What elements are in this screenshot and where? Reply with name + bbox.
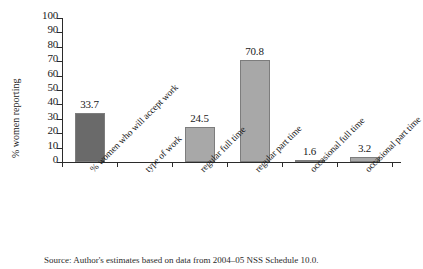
y-tick-label: 70 [32,53,58,64]
bar [240,60,270,162]
x-tick-mark [62,162,63,167]
y-tick-label: 60 [32,68,58,79]
y-tick-label: 0 [32,154,58,165]
y-tick-label: 80 [32,39,58,50]
bar-value-label: 70.8 [235,46,275,57]
x-tick-mark [172,162,173,167]
bar-value-label: 24.5 [180,113,220,124]
y-tick-label: 30 [32,111,58,122]
x-tick-mark [227,162,228,167]
y-tick-label: 50 [32,82,58,93]
x-axis-line [62,162,401,163]
x-tick-mark [337,162,338,167]
x-tick-mark [282,162,283,167]
y-tick-label: 10 [32,140,58,151]
y-tick-label: 90 [32,24,58,35]
figure-caption: Source: Author's estimates based on data… [44,254,412,266]
y-tick-label: 20 [32,125,58,136]
y-tick-label: 40 [32,96,58,107]
x-tick-mark [117,162,118,167]
y-tick-label: 100 [32,10,58,21]
x-tick-mark [392,162,393,167]
bar-value-label: 33.7 [70,99,110,110]
